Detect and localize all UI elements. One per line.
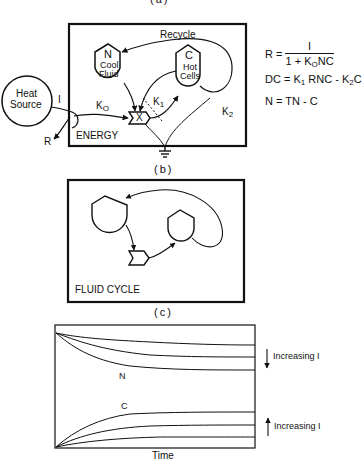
k2-letter: K <box>222 106 229 117</box>
k1-letter: K <box>153 96 160 107</box>
panel-label-c: (c) <box>154 307 173 318</box>
n-curve-3 <box>56 333 255 370</box>
remainder-label: R <box>44 137 51 147</box>
time-chart <box>55 325 268 448</box>
c-curve-2 <box>56 425 255 447</box>
diagram-canvas <box>0 0 363 466</box>
k0-flow-line <box>74 114 128 118</box>
hot-cells-line2: Cells <box>180 72 200 81</box>
n-curve-label: N <box>119 372 126 381</box>
annotation-c-increasing: Increasing I <box>274 422 321 431</box>
eq1-den-pre: 1 + K <box>285 55 311 67</box>
cool-fluid-line2: Fluid <box>99 70 119 79</box>
eq1-numerator: I <box>285 41 333 54</box>
annotation-n-increasing: Increasing I <box>273 352 320 361</box>
eq2-post: C <box>354 73 362 85</box>
eq1-fraction: I 1 + KONC <box>285 41 333 69</box>
k1-subscript: 1 <box>160 100 164 109</box>
energy-box-label: ENERGY <box>76 131 118 141</box>
fluid-cycle-box-label: FLUID CYCLE <box>75 285 140 295</box>
eq1-lhs: R = <box>265 48 285 60</box>
eq1-denominator: 1 + KONC <box>285 54 333 69</box>
k0-letter: K <box>96 100 103 111</box>
cool-fluid-symbol: N <box>104 49 112 60</box>
interaction-x-label: X <box>136 113 143 123</box>
c-curve-label: C <box>121 402 128 411</box>
n-to-x-line <box>124 83 135 111</box>
remainder-arrow <box>54 117 70 139</box>
k2-subscript: 2 <box>229 110 233 119</box>
source-flow-label: I <box>58 95 61 105</box>
recycle-label: Recycle <box>160 30 196 40</box>
equation-r: R = I 1 + KONC <box>265 41 334 69</box>
fluid-workgate <box>129 251 149 265</box>
fluid-tank-right <box>168 210 194 241</box>
fluid-gate-to-right <box>149 243 175 258</box>
equation-n: N = TN - C <box>265 96 318 107</box>
heat-source-label-line2: Source <box>10 100 42 110</box>
eq1-den-post: NC <box>318 55 334 67</box>
fluid-tank-left <box>92 196 127 233</box>
chart-frame <box>55 325 255 448</box>
k0-label: KO <box>96 101 109 113</box>
k2-label: K2 <box>222 107 233 119</box>
energy-diagram <box>2 24 246 157</box>
drain-line-x <box>145 124 165 147</box>
k1-label: K1 <box>153 97 164 109</box>
hot-cells-symbol: C <box>185 50 193 61</box>
eq2-mid: RNC - K <box>305 73 349 85</box>
c-curve-3 <box>56 437 255 447</box>
panel-label-b: (b) <box>154 164 173 175</box>
x-axis-label: Time <box>152 451 174 461</box>
k0-subscript: O <box>103 104 109 113</box>
ground-icon <box>159 146 171 157</box>
eq2-pre: DC = K <box>265 73 301 85</box>
equation-dc: DC = K1 RNC - K2C <box>265 74 362 87</box>
panel-label-a: (a) <box>150 0 169 5</box>
fluid-left-to-gate <box>126 225 134 250</box>
heat-source-label-line1: Heat <box>16 89 37 99</box>
